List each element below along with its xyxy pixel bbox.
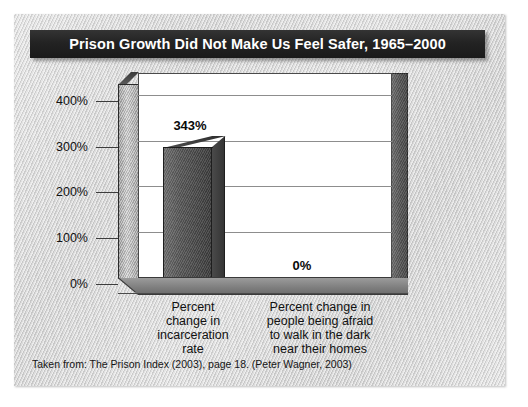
ytick-label-200: 200% — [34, 185, 88, 199]
tick-200 — [96, 192, 118, 193]
gridline-300 — [138, 141, 392, 142]
value-label-fear: 0% — [270, 258, 334, 273]
ytick-label-400: 400% — [34, 94, 88, 108]
page-title: Prison Growth Did Not Make Us Feel Safer… — [69, 36, 446, 52]
bar-chart: 400% 300% 200% 100% 0% 343% 0% Percent c… — [30, 72, 485, 347]
tick-400 — [96, 101, 118, 102]
plot-floor-top-edge — [138, 277, 392, 278]
category-line: change in — [148, 314, 238, 328]
bar-incarceration-top-edge — [163, 147, 213, 148]
category-line: rate — [148, 342, 238, 356]
gridline-400 — [138, 95, 392, 96]
category-line: incarceration — [148, 328, 238, 342]
category-line: people being afraid — [255, 314, 385, 328]
ytick-label-100: 100% — [34, 231, 88, 245]
plot-floor-front-edge — [118, 293, 408, 294]
plot-wall-left — [118, 84, 140, 279]
category-line: to walk in the dark — [255, 328, 385, 342]
source-citation: Taken from: The Prison Index (2003), pag… — [32, 358, 352, 370]
tick-0 — [96, 284, 118, 285]
tick-100 — [96, 238, 118, 239]
bar-incarceration-side — [212, 136, 225, 278]
plot-wall-right-texture — [392, 73, 408, 278]
category-line: Percent change in — [255, 300, 385, 314]
chart-image-root: Prison Growth Did Not Make Us Feel Safer… — [0, 0, 528, 407]
value-label-incarceration: 343% — [155, 118, 225, 133]
bar-incarceration — [163, 147, 212, 278]
category-line: near their homes — [255, 342, 385, 356]
tick-300 — [96, 147, 118, 148]
ytick-label-300: 300% — [34, 140, 88, 154]
category-label-fear: Percent change in people being afraid to… — [255, 300, 385, 356]
category-label-incarceration: Percent change in incarceration rate — [148, 300, 238, 356]
ytick-label-0: 0% — [34, 277, 88, 291]
chart-title-bar: Prison Growth Did Not Make Us Feel Safer… — [30, 30, 485, 58]
category-line: Percent — [148, 300, 238, 314]
